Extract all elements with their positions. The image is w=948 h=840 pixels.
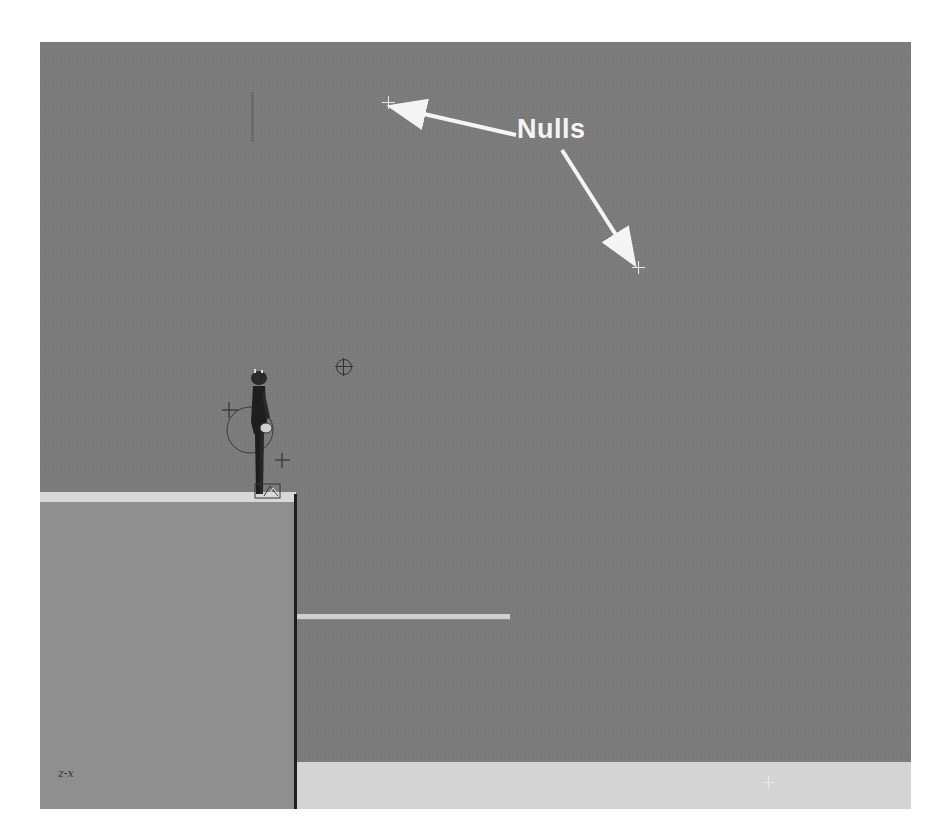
cliff-edge-line [294,494,297,809]
nulls-annotation-label: Nulls [517,114,586,145]
arrow-to-null-right [562,150,628,254]
null-right-icon[interactable] [632,261,645,274]
floor-plane[interactable] [296,762,911,809]
axis-indicator: z-x [58,767,74,780]
page: Nulls z-x [0,0,948,840]
arrow-to-null-upper-left [402,109,516,135]
null-floor-icon[interactable] [762,776,775,789]
hand-control-icon [275,453,290,468]
look-at-target-icon[interactable] [336,359,352,375]
ledge-plank[interactable] [297,614,510,620]
3d-viewport[interactable]: Nulls z-x [40,42,911,809]
faint-vertical-marker [251,92,254,142]
character-rig[interactable] [220,362,320,502]
null-upper-left-icon[interactable] [382,96,395,109]
cliff-block[interactable] [40,492,296,809]
hip-control-icon [222,402,238,418]
